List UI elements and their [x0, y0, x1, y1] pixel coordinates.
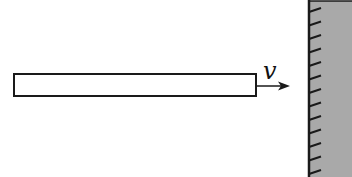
rod-wall-diagram: v — [0, 0, 352, 177]
wall-body — [309, 1, 352, 177]
wall — [309, 0, 352, 177]
rod — [14, 74, 256, 96]
velocity-label: v — [263, 57, 277, 85]
